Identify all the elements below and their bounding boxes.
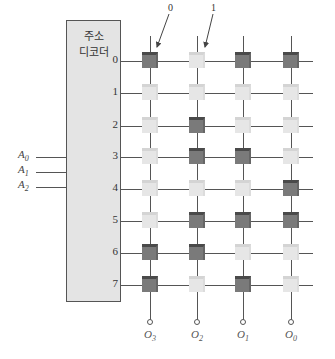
annotation-arrows xyxy=(0,0,335,359)
